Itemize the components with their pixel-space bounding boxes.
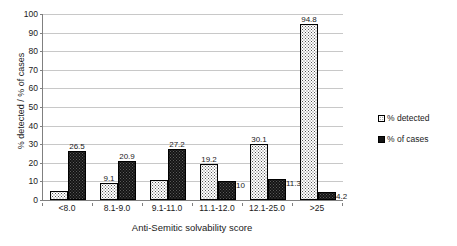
legend-item[interactable]: % detected [378,114,430,123]
bar-value-label: 30.1 [251,135,267,144]
legend: % detected% of cases [378,114,430,156]
bar-value-label: 94.8 [301,15,317,24]
x-axis-tick-mark [292,203,293,206]
x-axis-tick-labels: <8.08.1-9.09.1-11.011.1-12.012.1-25.0>25 [42,203,342,213]
x-axis-tick-label: 8.1-9.0 [92,203,142,213]
y-axis-tick-mark [40,200,43,201]
x-axis-tick-mark [192,203,193,206]
legend-label: % of cases [387,135,429,144]
y-axis-tick-label: 100 [24,10,38,19]
x-axis-tick-mark [92,203,93,206]
bar: 9.1 [100,183,118,200]
x-axis-tick-label: 12.1-25.0 [242,203,292,213]
legend-swatch-icon [378,136,385,143]
bar: 10 [218,181,236,200]
bar: 11.3 [268,179,286,200]
x-axis-tick-label: <8.0 [42,203,92,213]
y-axis-tick-label: 50 [29,103,38,112]
bar-group: 9.120.9 [93,14,143,200]
x-axis-tick-mark [42,203,43,206]
bar-value-label: 20.9 [119,152,135,161]
y-axis-tick-label: 90 [29,28,38,37]
bar-value-label: 26.5 [69,142,85,151]
legend-label: % detected [387,114,430,123]
bar-value-label: 9.1 [103,174,114,183]
y-axis-tick-label: 60 [29,84,38,93]
bar: 4.2 [318,192,336,200]
legend-swatch-icon [378,115,385,122]
x-axis-tick-label: >25 [292,203,342,213]
x-axis-tick-label: 9.1-11.0 [142,203,192,213]
y-axis-tick-label: 40 [29,121,38,130]
bar-group: 94.84.2 [293,14,343,200]
bar-value-label: 27.2 [169,140,185,149]
bar-value-label: 4.2 [336,192,347,201]
y-axis-tick-label: 70 [29,65,38,74]
y-axis-tick-label: 10 [29,177,38,186]
bar: 27.2 [168,149,186,200]
x-axis-tick-mark [242,203,243,206]
bar-group: 19.210 [193,14,243,200]
y-axis-tick-label: 20 [29,158,38,167]
y-axis-tick-label: 80 [29,47,38,56]
y-axis-tick-label: 30 [29,140,38,149]
bar-value-label: 19.2 [201,155,217,164]
plot-area: 4.826.59.120.910.527.219.21030.111.394.8… [42,14,343,201]
x-axis-tick-mark [142,203,143,206]
bar: 30.1 [250,144,268,200]
bar: 19.2 [200,164,218,200]
bar-groups: 4.826.59.120.910.527.219.21030.111.394.8… [43,14,343,200]
bar: 4.8 [50,191,68,200]
x-axis-title: Anti-Semitic solvability score [42,222,342,233]
bar-group: 30.111.3 [243,14,293,200]
legend-item[interactable]: % of cases [378,135,430,144]
bar-group: 4.826.5 [43,14,93,200]
bar: 10.5 [150,180,168,200]
bar-chart: % detected / % of cases 1009080706050403… [0,0,457,246]
bar: 26.5 [68,151,86,200]
bar-group: 10.527.2 [143,14,193,200]
x-axis-tick-mark [342,203,343,206]
y-axis-tick-label: 0 [33,196,38,205]
y-axis-tick-labels: 1009080706050403020100 [14,14,38,200]
x-axis-tick-label: 11.1-12.0 [192,203,242,213]
bar: 20.9 [118,161,136,200]
bar: 94.8 [300,24,318,200]
